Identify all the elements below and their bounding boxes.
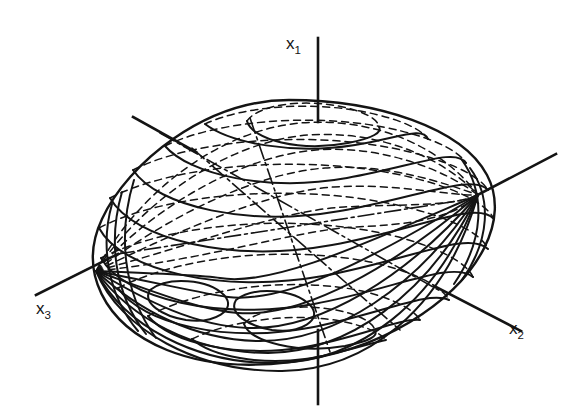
figure-root: x1 x2 x3: [0, 0, 581, 410]
ellipsoid-figure: x1 x2 x3: [0, 0, 581, 410]
